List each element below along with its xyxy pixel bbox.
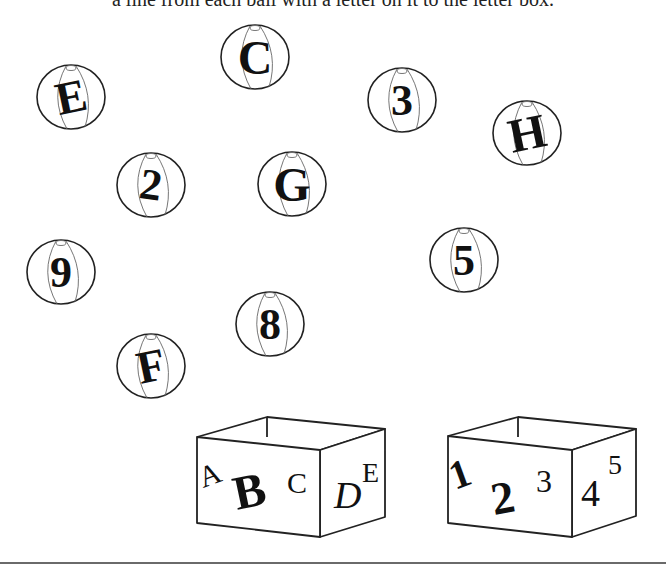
ball-9[interactable]: 9 [27,240,95,304]
ball-h[interactable]: H [493,101,561,165]
ball-f[interactable]: F [117,334,185,398]
ball-g[interactable]: G [258,152,326,216]
ball-5[interactable]: 5 [430,228,498,292]
ball-cap-icon [56,241,66,246]
ball-glyph: 3 [391,76,413,125]
ball-cap-icon [397,69,407,74]
ball-cap-icon [459,229,469,234]
box-glyph: 3 [536,463,552,499]
ball-e[interactable]: E [37,65,105,129]
ball-glyph: 8 [259,300,281,349]
worksheet-canvas: EC3H2G958F ABCDE12345 [0,0,666,568]
letter-box[interactable]: ABCDE [194,417,385,537]
number-box[interactable]: 12345 [443,417,636,537]
ball-3[interactable]: 3 [368,68,436,132]
ball-cap-icon [265,293,275,298]
ball-c[interactable]: C [221,25,289,89]
ball-glyph: C [238,31,273,84]
box-glyph: C [287,466,307,499]
balls-group: EC3H2G958F [27,25,561,398]
ball-glyph: 9 [50,248,72,297]
ball-glyph: 5 [453,236,475,285]
box-glyph: E [362,457,379,488]
ball-8[interactable]: 8 [236,292,304,356]
ball-glyph: G [273,158,310,211]
boxes-group: ABCDE12345 [194,417,636,537]
box-glyph: 4 [581,472,600,514]
ball-cap-icon [146,154,156,159]
ball-2[interactable]: 2 [117,153,185,217]
box-glyph: D [333,474,361,516]
box-glyph: 5 [608,449,622,480]
bottom-divider [0,562,666,564]
